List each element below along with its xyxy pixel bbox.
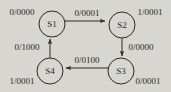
corner-label-s4: 1/0001 [9,76,34,86]
transition-s4-to-s1-label: 0/1000 [14,42,40,52]
transition-s2-to-s3-label: 0/0000 [128,42,154,52]
state-node-s4[interactable]: S4 [37,58,63,84]
transition-s2-to-s3: 0/0000 [122,38,154,56]
corner-label-s3: 0/0001 [135,76,160,86]
transition-s3-to-s4-label: 0/0100 [74,55,100,65]
state-label-s3: S3 [116,66,126,76]
transition-s1-to-s2: 0/0001 [65,8,105,21]
state-label-s4: S4 [45,66,55,76]
state-node-s1[interactable]: S1 [39,11,65,37]
state-node-s2[interactable]: S2 [109,12,135,38]
corner-label-s1: 0/0000 [9,7,35,17]
state-node-s3[interactable]: S3 [108,58,134,84]
transition-s3-to-s4: 0/0100 [66,55,108,68]
corner-label-s2: 1/0001 [137,7,162,17]
state-label-s1: S1 [47,19,57,29]
state-label-s2: S2 [117,20,127,30]
state-diagram-canvas: 0/0001 0/0000 0/0100 0/1000 S1 S2 [0,0,171,92]
state-diagram: 0/0001 0/0000 0/0100 0/1000 S1 S2 [0,0,171,92]
transition-s1-to-s2-label: 0/0001 [74,8,99,18]
transition-s4-to-s1: 0/1000 [14,39,50,58]
